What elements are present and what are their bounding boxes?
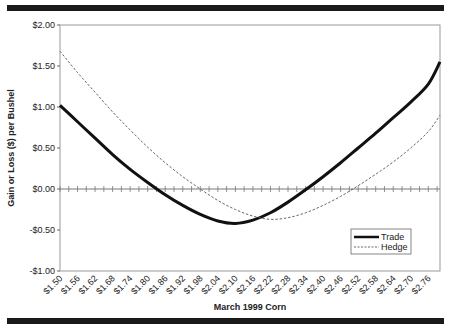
x-tick-label: $2.52	[340, 273, 363, 296]
y-tick-label: $0.50	[32, 143, 55, 153]
x-tick-label: $2.70	[392, 273, 415, 296]
x-tick-label: $1.92	[164, 273, 187, 296]
x-tick-label: $1.50	[41, 273, 64, 296]
x-tick-label: $1.68	[94, 273, 117, 296]
x-tick-label: $1.62	[76, 273, 99, 296]
x-tick-label: $1.80	[129, 273, 152, 296]
chart: $2.00$1.50$1.00$0.50$0.00-$0.50-$1.00$1.…	[0, 0, 452, 332]
legend-label-trade: Trade	[381, 232, 404, 242]
x-tick-label: $2.28	[269, 273, 292, 296]
x-tick-label: $2.04	[199, 273, 222, 296]
legend: TradeHedge	[351, 229, 411, 254]
x-tick-label: $2.76	[410, 273, 433, 296]
x-tick-label: $1.98	[182, 273, 205, 296]
x-tick-label: $2.10	[217, 273, 240, 296]
y-tick-label: $2.00	[32, 20, 55, 30]
x-tick-label: $2.46	[322, 273, 345, 296]
x-tick-label: $2.40	[304, 273, 327, 296]
x-tick-label: $1.74	[112, 273, 135, 296]
x-tick-label: $1.56	[59, 273, 82, 296]
y-tick-label: -$1.00	[29, 266, 55, 276]
y-tick-label: $1.00	[32, 102, 55, 112]
x-tick-label: $2.58	[357, 273, 380, 296]
x-tick-label: $2.34	[287, 273, 310, 296]
legend-label-hedge: Hedge	[381, 242, 408, 252]
y-tick-label: $1.50	[32, 61, 55, 71]
x-tick-label: $2.16	[234, 273, 257, 296]
y-tick-label: $0.00	[32, 184, 55, 194]
y-axis-title: Gain or Loss ($) per Bushel	[6, 89, 16, 207]
y-tick-label: -$0.50	[29, 225, 55, 235]
x-tick-label: $2.64	[375, 273, 398, 296]
x-axis-title: March 1999 Corn	[214, 302, 287, 312]
x-tick-label: $2.22	[252, 273, 275, 296]
x-tick-label: $1.86	[147, 273, 170, 296]
